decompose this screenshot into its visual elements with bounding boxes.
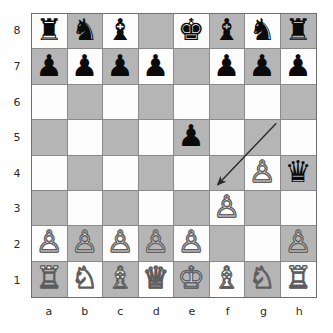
- black-pawn-on-a7[interactable]: ♟: [36, 51, 63, 81]
- black-bishop-on-f8[interactable]: ♝: [213, 15, 240, 45]
- square-e3[interactable]: [174, 191, 210, 226]
- square-g1[interactable]: ♘: [245, 262, 281, 297]
- black-pawn-on-f7[interactable]: ♟: [213, 51, 240, 81]
- white-pawn-on-e2[interactable]: ♙: [178, 227, 205, 257]
- square-b3[interactable]: [68, 191, 104, 226]
- black-knight-on-g8[interactable]: ♞: [249, 15, 276, 45]
- square-d1[interactable]: ♕: [139, 262, 175, 297]
- square-c6[interactable]: [103, 85, 139, 120]
- square-f3[interactable]: ♙: [210, 191, 246, 226]
- square-a2[interactable]: ♙: [32, 226, 68, 261]
- square-b5[interactable]: [68, 120, 104, 155]
- black-rook-on-h8[interactable]: ♜: [285, 15, 312, 45]
- square-f8[interactable]: ♝: [210, 14, 246, 49]
- square-f4[interactable]: [210, 156, 246, 191]
- file-label-e: e: [174, 300, 210, 322]
- square-d2[interactable]: ♙: [139, 226, 175, 261]
- square-a6[interactable]: [32, 85, 68, 120]
- square-h5[interactable]: [281, 120, 317, 155]
- square-h2[interactable]: ♙: [281, 226, 317, 261]
- square-h1[interactable]: ♖: [281, 262, 317, 297]
- black-bishop-on-c8[interactable]: ♝: [107, 15, 134, 45]
- white-pawn-on-h2[interactable]: ♙: [285, 227, 312, 257]
- white-rook-on-h1[interactable]: ♖: [285, 263, 312, 293]
- file-label-d: d: [138, 300, 174, 322]
- square-f1[interactable]: ♗: [210, 262, 246, 297]
- square-d8[interactable]: [139, 14, 175, 49]
- square-e1[interactable]: ♔: [174, 262, 210, 297]
- square-d4[interactable]: [139, 156, 175, 191]
- square-g7[interactable]: ♟: [245, 49, 281, 84]
- white-pawn-on-f3[interactable]: ♙: [213, 192, 240, 222]
- white-pawn-on-d2[interactable]: ♙: [142, 227, 169, 257]
- square-g3[interactable]: [245, 191, 281, 226]
- white-queen-on-d1[interactable]: ♕: [142, 263, 169, 293]
- square-b8[interactable]: ♞: [68, 14, 104, 49]
- white-knight-on-g1[interactable]: ♘: [249, 263, 276, 293]
- square-e4[interactable]: [174, 156, 210, 191]
- square-c2[interactable]: ♙: [103, 226, 139, 261]
- white-pawn-on-c2[interactable]: ♙: [107, 227, 134, 257]
- black-pawn-on-h7[interactable]: ♟: [285, 51, 312, 81]
- square-g6[interactable]: [245, 85, 281, 120]
- square-g2[interactable]: [245, 226, 281, 261]
- square-g8[interactable]: ♞: [245, 14, 281, 49]
- white-pawn-on-b2[interactable]: ♙: [71, 227, 98, 257]
- square-c8[interactable]: ♝: [103, 14, 139, 49]
- white-king-on-e1[interactable]: ♔: [178, 263, 205, 293]
- square-b7[interactable]: ♟: [68, 49, 104, 84]
- square-a8[interactable]: ♜: [32, 14, 68, 49]
- square-a3[interactable]: [32, 191, 68, 226]
- square-d6[interactable]: [139, 85, 175, 120]
- square-h3[interactable]: [281, 191, 317, 226]
- square-a1[interactable]: ♖: [32, 262, 68, 297]
- square-d5[interactable]: [139, 120, 175, 155]
- square-h4[interactable]: ♛: [281, 156, 317, 191]
- square-e7[interactable]: [174, 49, 210, 84]
- square-h6[interactable]: [281, 85, 317, 120]
- square-g4[interactable]: ♙: [245, 156, 281, 191]
- square-b1[interactable]: ♘: [68, 262, 104, 297]
- square-h8[interactable]: ♜: [281, 14, 317, 49]
- square-b2[interactable]: ♙: [68, 226, 104, 261]
- square-c5[interactable]: [103, 120, 139, 155]
- square-e2[interactable]: ♙: [174, 226, 210, 261]
- square-c3[interactable]: [103, 191, 139, 226]
- black-queen-on-h4[interactable]: ♛: [285, 157, 312, 187]
- square-e8[interactable]: ♚: [174, 14, 210, 49]
- black-pawn-on-c7[interactable]: ♟: [107, 51, 134, 81]
- white-knight-on-b1[interactable]: ♘: [71, 263, 98, 293]
- square-a7[interactable]: ♟: [32, 49, 68, 84]
- white-bishop-on-c1[interactable]: ♗: [107, 263, 134, 293]
- square-f2[interactable]: [210, 226, 246, 261]
- square-c4[interactable]: [103, 156, 139, 191]
- square-d7[interactable]: ♟: [139, 49, 175, 84]
- file-label-h: h: [281, 300, 317, 322]
- black-knight-on-b8[interactable]: ♞: [71, 15, 98, 45]
- black-pawn-on-e5[interactable]: ♟: [178, 121, 205, 151]
- square-f5[interactable]: [210, 120, 246, 155]
- black-rook-on-a8[interactable]: ♜: [36, 15, 63, 45]
- square-e5[interactable]: ♟: [174, 120, 210, 155]
- white-rook-on-a1[interactable]: ♖: [36, 263, 63, 293]
- square-g5[interactable]: [245, 120, 281, 155]
- square-a4[interactable]: [32, 156, 68, 191]
- square-b4[interactable]: [68, 156, 104, 191]
- square-f7[interactable]: ♟: [210, 49, 246, 84]
- square-h7[interactable]: ♟: [281, 49, 317, 84]
- square-b6[interactable]: [68, 85, 104, 120]
- white-pawn-on-a2[interactable]: ♙: [36, 227, 63, 257]
- square-f6[interactable]: [210, 85, 246, 120]
- black-king-on-e8[interactable]: ♚: [178, 15, 205, 45]
- square-a5[interactable]: [32, 120, 68, 155]
- chess-board: ♜♞♝♚♝♞♜♟♟♟♟♟♟♟♟♙♛♙♙♙♙♙♙♙♖♘♗♕♔♗♘♖: [31, 13, 317, 298]
- white-bishop-on-f1[interactable]: ♗: [213, 263, 240, 293]
- white-pawn-on-g4[interactable]: ♙: [249, 157, 276, 187]
- square-c7[interactable]: ♟: [103, 49, 139, 84]
- square-e6[interactable]: [174, 85, 210, 120]
- black-pawn-on-b7[interactable]: ♟: [71, 51, 98, 81]
- square-d3[interactable]: [139, 191, 175, 226]
- square-c1[interactable]: ♗: [103, 262, 139, 297]
- black-pawn-on-d7[interactable]: ♟: [142, 51, 169, 81]
- black-pawn-on-g7[interactable]: ♟: [249, 51, 276, 81]
